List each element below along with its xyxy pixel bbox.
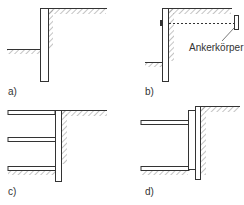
strut-3 [8, 167, 56, 171]
panel-d: d) [141, 107, 240, 198]
leader-line [222, 28, 234, 41]
anchor-body-label: Ankerkörper [189, 42, 244, 53]
soil-hatch-excavation [141, 171, 188, 175]
anchor-head [160, 20, 162, 26]
soil-hatch-top [169, 9, 231, 14]
strut-1 [141, 121, 189, 125]
panel-label-b: b) [145, 86, 154, 97]
soil-hatch-excavation [7, 50, 40, 54]
retaining-wall-diagram: a) Ankerkörper b) c) [0, 0, 244, 205]
soil-hatch-wall [169, 9, 174, 61]
panel-label-c: c) [8, 186, 16, 197]
retaining-wall [41, 9, 49, 82]
strut-2 [141, 167, 189, 171]
soil-hatch-wall [201, 107, 206, 175]
strut-2 [8, 138, 56, 142]
panel-label-a: a) [8, 86, 17, 97]
strut-1 [8, 111, 55, 115]
panel-c: c) [8, 111, 107, 198]
waler [189, 111, 196, 170]
soil-hatch-excavation [145, 63, 162, 67]
soil-hatch-excavation [8, 171, 55, 175]
soil-hatch-top [62, 111, 107, 116]
soil-hatch-top [201, 107, 239, 112]
anchor-body [235, 16, 239, 30]
soil-hatch-wall [62, 111, 67, 164]
retaining-wall [163, 9, 169, 82]
retaining-wall [196, 107, 201, 180]
retaining-wall [56, 111, 62, 182]
panel-label-d: d) [145, 186, 154, 197]
panel-a: a) [7, 9, 107, 98]
soil-hatch-top [48, 9, 106, 14]
panel-b: Ankerkörper b) [145, 9, 244, 98]
